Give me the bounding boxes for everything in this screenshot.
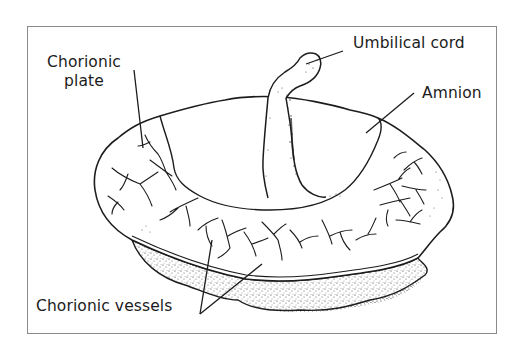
label-chorionic-vessels: Chorionic vessels xyxy=(36,297,172,316)
label-chorionic-plate-line1: Chorionic xyxy=(38,53,130,72)
label-amnion: Amnion xyxy=(422,84,482,103)
placenta-diagram: Chorionic plate Umbilical cord Amnion Ch… xyxy=(0,0,520,346)
label-chorionic-plate-line2: plate xyxy=(38,72,130,91)
label-chorionic-plate: Chorionic plate xyxy=(38,53,130,91)
label-umbilical-cord: Umbilical cord xyxy=(353,34,465,53)
